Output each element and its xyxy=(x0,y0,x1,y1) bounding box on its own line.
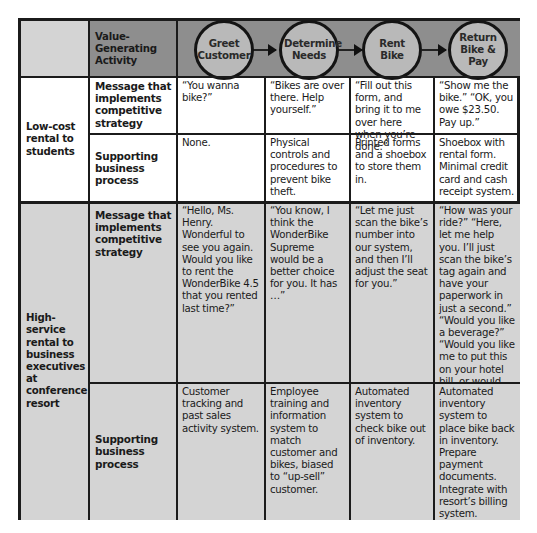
cell: “Let me just scan the bike’s number into… xyxy=(350,202,434,383)
cell-text: “Show me the bike.” “OK, you owe $23.50.… xyxy=(439,80,513,128)
segment-low-cost: Low-cost rental to students xyxy=(21,77,89,202)
row-label-supporting: Supporting business process xyxy=(89,383,177,520)
row-label-message: Message that implements competitive stra… xyxy=(89,202,177,383)
cell: “You know, I think the WonderBike Suprem… xyxy=(265,202,350,383)
grid-line xyxy=(433,77,435,520)
row-label: Supporting business process xyxy=(95,433,155,470)
activity-rent-bike: Rent Bike xyxy=(362,20,422,80)
cell: “Hello, Ms. Henry. Wonderful to see you … xyxy=(177,202,265,383)
cell: Automated inventory system to check bike… xyxy=(350,383,434,520)
cell: Printed forms and a shoebox to store the… xyxy=(350,134,434,202)
cell-text: Automated inventory system to place bike… xyxy=(439,386,514,519)
cell: “How was your ride?” “Here, let me help … xyxy=(434,202,520,383)
cell-text: “Let me just scan the bike’s number into… xyxy=(355,205,428,289)
cell-text: Physical controls and procedures to prev… xyxy=(270,137,337,197)
cell: Automated inventory system to place bike… xyxy=(434,383,520,520)
arrow-icon xyxy=(338,49,362,51)
row-label-supporting: Supporting business process xyxy=(89,134,177,202)
activity-greet-customer: Greet Customer xyxy=(194,20,254,80)
segment-label: Low-cost rental to students xyxy=(26,121,84,158)
activity-label: Rent Bike xyxy=(377,38,407,62)
cell: None. xyxy=(177,134,265,202)
header-row-label: Value-Generating Activity xyxy=(89,21,177,77)
cell: Employee training and information system… xyxy=(265,383,350,520)
activity-return-bike-pay: Return Bike & Pay xyxy=(448,20,508,80)
cell-text: Shoebox with rental form. Minimal credit… xyxy=(439,137,514,197)
segment-divider xyxy=(21,201,520,204)
cell: Customer tracking and past sales activit… xyxy=(177,383,265,520)
segment-high-service: High-service rental to business executiv… xyxy=(21,202,89,520)
value-chain-table: Value-Generating Activity Greet Customer… xyxy=(18,18,520,520)
cell-text: Automated inventory system to check bike… xyxy=(355,386,426,446)
row-label: Message that implements competitive stra… xyxy=(95,80,171,129)
arrow-icon xyxy=(422,49,446,51)
header-corner xyxy=(21,21,89,77)
activity-label: Return Bike & Pay xyxy=(458,32,498,68)
grid-line xyxy=(176,21,178,520)
row-label: Supporting business process xyxy=(95,150,155,187)
cell: “Show me the bike.” “OK, you owe $23.50.… xyxy=(434,77,520,134)
segment-label: High-service rental to business executiv… xyxy=(26,312,87,410)
cell: “Fill out this form, and bring it to me … xyxy=(350,77,434,134)
cell: “Bikes are over there. Help yourself.” xyxy=(265,77,350,134)
activity-label: Greet Customer xyxy=(197,38,251,62)
activity-label: Determine Needs xyxy=(284,38,334,62)
cell-text: Employee training and information system… xyxy=(270,386,337,495)
grid-line xyxy=(21,76,520,78)
cell-text: “You know, I think the WonderBike Suprem… xyxy=(270,205,337,301)
activity-determine-needs: Determine Needs xyxy=(279,20,339,80)
cell: “You wanna bike?” xyxy=(177,77,265,134)
cell: Physical controls and procedures to prev… xyxy=(265,134,350,202)
cell-text: “Bikes are over there. Help yourself.” xyxy=(270,80,344,115)
row-label-message: Message that implements competitive stra… xyxy=(89,77,177,134)
cell-text: “Hello, Ms. Henry. Wonderful to see you … xyxy=(182,205,259,314)
cell-text: None. xyxy=(182,137,211,148)
cell: Shoebox with rental form. Minimal credit… xyxy=(434,134,520,202)
cell-text: Customer tracking and past sales activit… xyxy=(182,386,259,434)
grid-line xyxy=(89,382,520,384)
value-generating-activity-label: Value-Generating Activity xyxy=(95,31,165,68)
grid-line xyxy=(88,21,90,520)
cell-text: “How was your ride?” “Here, let me help … xyxy=(439,205,515,411)
grid-line xyxy=(89,133,520,135)
grid-line xyxy=(264,77,266,520)
grid-line xyxy=(349,77,351,520)
cell-text: Printed forms and a shoebox to store the… xyxy=(355,137,426,185)
row-label: Message that implements competitive stra… xyxy=(95,209,171,258)
cell-text: “You wanna bike?” xyxy=(182,80,239,103)
